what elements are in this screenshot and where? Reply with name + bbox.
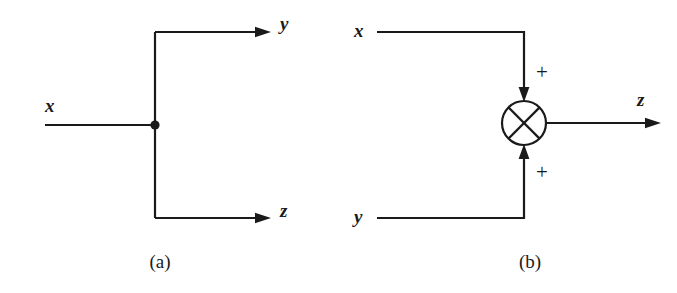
output-z-arrowhead xyxy=(645,118,661,123)
panel-a-output-label-z: z xyxy=(280,201,287,220)
panel-b-summing-junction: x y z + + (b) xyxy=(340,0,677,293)
panel-b-input-label-y: y xyxy=(354,207,362,226)
signal-split-node-dot xyxy=(150,120,159,129)
input-y-arrowhead xyxy=(519,144,530,159)
panel-b-caption: (b) xyxy=(500,252,560,271)
panel-a-caption: (a) xyxy=(130,252,190,271)
input-x-sign-plus: + xyxy=(536,62,548,83)
input-y-wire xyxy=(377,152,524,218)
panel-b-input-label-x: x xyxy=(354,21,364,40)
output-z-arrowhead xyxy=(255,213,271,218)
output-y-arrowhead-lower xyxy=(255,32,271,37)
figure-container: x y z (a) xyxy=(0,0,677,293)
input-x-wire xyxy=(377,32,524,94)
output-z-arrowhead-lower xyxy=(255,218,271,223)
output-z-arrowhead-lower xyxy=(645,123,661,128)
panel-a-output-label-y: y xyxy=(280,14,288,33)
panel-a-input-label-x: x xyxy=(45,96,55,115)
output-y-arrowhead xyxy=(255,27,271,32)
panel-a-signal-splitter: x y z (a) xyxy=(0,0,340,293)
panel-b-diagram xyxy=(340,0,677,293)
panel-a-diagram xyxy=(0,0,340,293)
input-x-arrowhead xyxy=(519,87,530,102)
input-y-sign-plus: + xyxy=(536,162,548,183)
panel-b-output-label-z: z xyxy=(637,90,644,109)
